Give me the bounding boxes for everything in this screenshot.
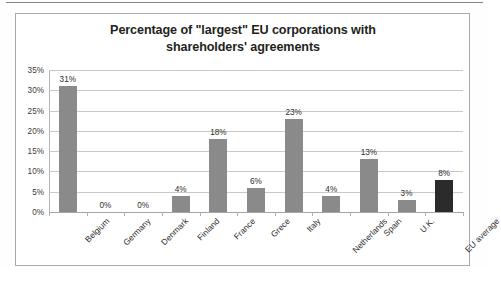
bar-grece[interactable] [247,188,265,212]
bar-slot: 4% [162,70,200,212]
bar-slot: 23% [275,70,313,212]
bar-value-label: 8% [438,169,450,178]
bar-eu-average[interactable] [435,180,453,212]
y-axis-tick-label: 5% [32,187,44,196]
y-axis-tick-labels: 35%30%25%20%15%10%5%0% [16,70,47,212]
bar-slot: 0% [87,70,125,212]
bar-italy[interactable] [285,119,303,212]
bar-value-label: 0% [137,201,149,210]
bar-slot: 6% [237,70,275,212]
x-axis-label-italy: Italy [304,216,322,234]
page-top-rule [6,2,483,3]
plot-wrapper: 35%30%25%20%15%10%5%0% 31%0%0%4%18%6%23%… [16,14,469,265]
y-axis-tick-label: 35% [28,66,44,75]
y-axis-tick-label: 20% [28,126,44,135]
bar-slot: 4% [312,70,350,212]
bar-france[interactable] [209,139,227,212]
bar-value-label: 4% [175,185,187,194]
x-axis-tick [463,212,464,216]
bar-slot: 31% [49,70,87,212]
bar-slot: 3% [388,70,426,212]
y-axis-tick-label: 25% [28,106,44,115]
bar-value-label: 31% [60,75,76,84]
bar-u-k[interactable] [398,200,416,212]
bar-belgium[interactable] [59,86,77,212]
bar-slot: 13% [350,70,388,212]
bar-spain[interactable] [360,159,378,212]
x-axis-label-germany: Germany [122,216,153,247]
bar-value-label: 18% [210,128,226,137]
y-axis-tick-label: 30% [28,86,44,95]
x-axis-label-grece: Grece [269,216,292,239]
x-axis-category-labels: BelgiumGermanyDenmarkFinlandFranceGreceI… [49,216,463,264]
x-axis-label-u-k: U.K. [417,216,436,235]
bar-series: 31%0%0%4%18%6%23%4%13%3%8% [49,70,463,212]
bar-slot: 8% [425,70,463,212]
y-axis-tick-label: 0% [32,208,44,217]
bar-slot: 18% [200,70,238,212]
x-axis-label-eu-average: EU average [463,216,501,254]
bar-value-label: 13% [361,148,377,157]
x-axis-label-denmark: Denmark [159,216,190,247]
y-axis-tick-label: 15% [28,147,44,156]
bar-value-label: 4% [325,185,337,194]
x-axis-label-france: France [232,216,258,242]
bar-value-label: 6% [250,177,262,186]
x-axis-label-netherlands: Netherlands [350,216,389,255]
bar-slot: 0% [124,70,162,212]
x-axis-label-finland: Finland [195,216,221,242]
x-axis-label-belgium: Belgium [83,216,111,244]
bar-finland[interactable] [172,196,190,212]
y-axis-tick-label: 10% [28,167,44,176]
bar-value-label: 0% [100,201,112,210]
chart-frame: Percentage of "largest" EU corporations … [15,13,470,266]
bar-value-label: 3% [401,189,413,198]
bar-value-label: 23% [285,108,301,117]
page-bottom-margin [0,268,487,285]
bar-netherlands[interactable] [322,196,340,212]
